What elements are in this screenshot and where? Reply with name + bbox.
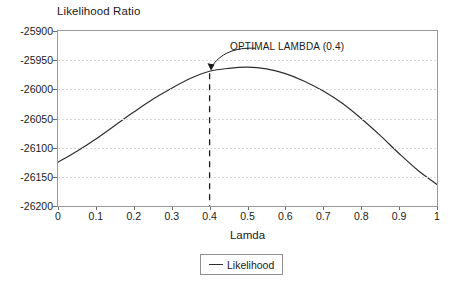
x-axis-tick-label: 0 (55, 210, 61, 222)
plot-inner (58, 31, 437, 206)
y-axis-tick-label: -26100 (0, 142, 53, 154)
chart-figure: Likelihood Ratio -25900-25950-26000-2605… (0, 0, 456, 285)
gridline (58, 148, 437, 149)
x-axis-tick-label: 0.3 (164, 210, 179, 222)
y-axis-tick-label: -26200 (0, 200, 53, 212)
legend-item-label: Likelihood (227, 259, 274, 271)
legend-line-swatch (209, 264, 223, 265)
x-axis-tick-label: 1 (434, 210, 440, 222)
x-axis-tick-label: 0.8 (354, 210, 369, 222)
gridline (58, 89, 437, 90)
gridline (58, 177, 437, 178)
x-axis-tick-label: 0.2 (126, 210, 141, 222)
y-axis-tick-label: -26000 (0, 83, 53, 95)
chart-title: Likelihood Ratio (57, 5, 140, 17)
series-line-likelihood (58, 67, 437, 184)
gridline (58, 60, 437, 61)
x-axis-tick-labels: 00.10.20.30.40.50.60.70.80.91 (57, 210, 438, 226)
x-axis-tick-label: 0.9 (392, 210, 407, 222)
y-axis-tick-label: -25950 (0, 54, 53, 66)
y-axis-tick-label: -26050 (0, 113, 53, 125)
x-axis-tick-label: 0.6 (278, 210, 293, 222)
plot-area (57, 30, 438, 207)
chart-legend: Likelihood (200, 254, 283, 275)
y-axis-tick-label: -25900 (0, 25, 53, 37)
annotation-optimal-lambda-label: OPTIMAL LAMBDA (0.4) (230, 41, 344, 52)
x-axis-tick-label: 0.4 (202, 210, 217, 222)
x-axis-tick-label: 0.7 (316, 210, 331, 222)
gridline (58, 119, 437, 120)
x-axis-title: Lamda (57, 229, 438, 241)
y-axis-tick-label: -26150 (0, 171, 53, 183)
x-axis-tick-label: 0.5 (240, 210, 255, 222)
y-axis-tick-labels: -25900-25950-26000-26050-26100-26150-262… (0, 30, 53, 207)
x-axis-tick-label: 0.1 (89, 210, 104, 222)
